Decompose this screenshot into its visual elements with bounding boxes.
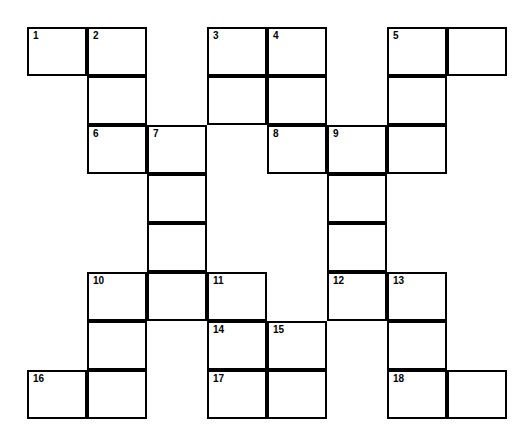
- grid-cell[interactable]: [87, 370, 147, 419]
- cell-number: 16: [33, 373, 44, 385]
- grid-cell[interactable]: [447, 370, 507, 419]
- grid-cell[interactable]: [87, 76, 147, 125]
- cell-number: 9: [333, 128, 339, 140]
- grid-cell[interactable]: [267, 370, 327, 419]
- cell-number: 1: [33, 30, 39, 42]
- grid-cell[interactable]: 14: [207, 321, 267, 370]
- cell-number: 3: [213, 30, 219, 42]
- grid-cell[interactable]: 15: [267, 321, 327, 370]
- cell-number: 18: [393, 373, 404, 385]
- cell-number: 14: [213, 324, 224, 336]
- grid-cell[interactable]: 2: [87, 27, 147, 76]
- grid-cell[interactable]: 5: [387, 27, 447, 76]
- cell-number: 2: [93, 30, 99, 42]
- grid-cell[interactable]: [147, 272, 207, 321]
- cell-number: 10: [93, 275, 104, 287]
- grid-cell[interactable]: [387, 76, 447, 125]
- grid-cell[interactable]: [327, 174, 387, 223]
- grid-cell[interactable]: 12: [327, 272, 387, 321]
- grid-cell[interactable]: 18: [387, 370, 447, 419]
- grid-cell[interactable]: 13: [387, 272, 447, 321]
- crossword-grid[interactable]: 123456789101112131415161718: [0, 0, 531, 443]
- grid-cell[interactable]: 10: [87, 272, 147, 321]
- cell-number: 8: [273, 128, 279, 140]
- cell-number: 12: [333, 275, 344, 287]
- grid-cell[interactable]: [87, 321, 147, 370]
- grid-cell[interactable]: 4: [267, 27, 327, 76]
- grid-cell[interactable]: 17: [207, 370, 267, 419]
- cell-number: 7: [153, 128, 159, 140]
- grid-cell[interactable]: 8: [267, 125, 327, 174]
- grid-cell[interactable]: [387, 125, 447, 174]
- grid-cell[interactable]: [387, 321, 447, 370]
- grid-cell[interactable]: [147, 174, 207, 223]
- grid-cell[interactable]: 3: [207, 27, 267, 76]
- grid-cell[interactable]: [447, 27, 507, 76]
- cell-number: 15: [273, 324, 284, 336]
- crossword-puzzle: 123456789101112131415161718: [0, 0, 531, 443]
- cell-number: 17: [213, 373, 224, 385]
- grid-cell[interactable]: [147, 223, 207, 272]
- grid-cell[interactable]: 6: [87, 125, 147, 174]
- cell-number: 11: [213, 275, 224, 287]
- grid-cell[interactable]: 16: [27, 370, 87, 419]
- grid-cell[interactable]: [327, 223, 387, 272]
- grid-cell[interactable]: [267, 76, 327, 125]
- cell-number: 6: [93, 128, 99, 140]
- cell-number: 4: [273, 30, 279, 42]
- grid-cell[interactable]: [207, 76, 267, 125]
- grid-cell[interactable]: 1: [27, 27, 87, 76]
- grid-cell[interactable]: 7: [147, 125, 207, 174]
- cell-number: 13: [393, 275, 404, 287]
- cell-number: 5: [393, 30, 399, 42]
- grid-cell[interactable]: 9: [327, 125, 387, 174]
- grid-cell[interactable]: 11: [207, 272, 267, 321]
